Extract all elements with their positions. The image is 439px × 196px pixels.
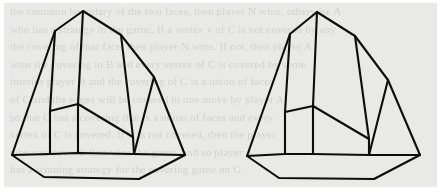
figure-page: the common boundary of the two faces, th… (0, 0, 439, 196)
right-polyhedron-wireframe (4, 3, 437, 187)
figure-pair (4, 3, 437, 187)
right-polyhedron-edges (247, 12, 420, 179)
scanned-paper-area: the common boundary of the two faces, th… (4, 3, 437, 187)
